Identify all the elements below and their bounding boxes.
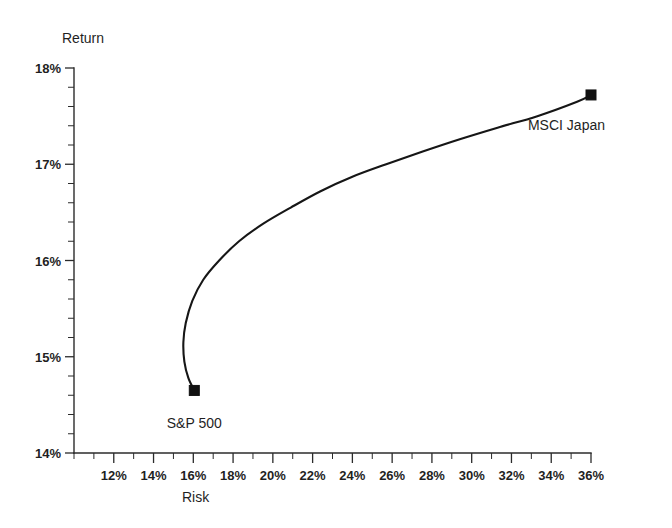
x-tick-label: 30%: [459, 468, 485, 483]
x-axis-title: Risk: [182, 489, 210, 505]
x-tick-label: 24%: [339, 468, 365, 483]
x-tick-label: 34%: [538, 468, 564, 483]
data-point-markers: [189, 90, 596, 395]
y-tick-label: 14%: [35, 446, 61, 461]
x-axis-ticks: [74, 453, 591, 463]
x-tick-label: 36%: [578, 468, 604, 483]
y-axis-title: Return: [62, 30, 104, 46]
data-point-label: MSCI Japan: [528, 117, 605, 133]
y-axis-ticks: [65, 68, 74, 453]
x-tick-label: 28%: [419, 468, 445, 483]
y-axis-tick-labels: 14%15%16%17%18%: [35, 61, 61, 461]
efficient-frontier-curve: [183, 95, 591, 390]
y-tick-label: 17%: [35, 157, 61, 172]
y-tick-label: 15%: [35, 350, 61, 365]
chart-canvas: Return Risk 14%15%16%17%18% 12%14%16%18%…: [0, 0, 672, 528]
y-tick-label: 16%: [35, 254, 61, 269]
x-tick-label: 32%: [498, 468, 524, 483]
x-axis-tick-labels: 12%14%16%18%20%22%24%26%28%30%32%34%36%: [101, 468, 605, 483]
x-tick-label: 18%: [220, 468, 246, 483]
data-point-marker: [189, 385, 199, 395]
x-tick-label: 20%: [260, 468, 286, 483]
data-point-marker: [586, 90, 596, 100]
x-tick-label: 22%: [300, 468, 326, 483]
data-point-label: S&P 500: [167, 415, 222, 431]
x-tick-label: 26%: [379, 468, 405, 483]
efficient-frontier-chart: Return Risk 14%15%16%17%18% 12%14%16%18%…: [0, 0, 672, 528]
x-tick-label: 16%: [180, 468, 206, 483]
y-tick-label: 18%: [35, 61, 61, 76]
x-tick-label: 14%: [141, 468, 167, 483]
x-tick-label: 12%: [101, 468, 127, 483]
